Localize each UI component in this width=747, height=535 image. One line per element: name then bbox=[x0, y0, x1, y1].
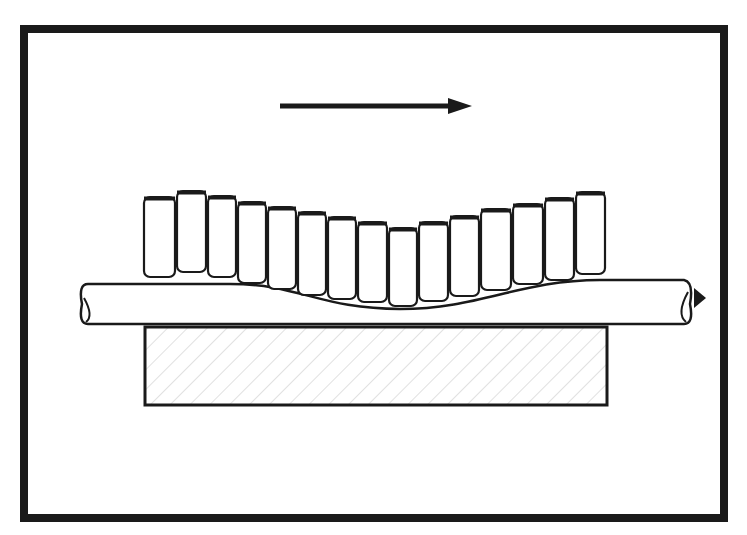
roller bbox=[450, 216, 479, 296]
roller bbox=[177, 191, 206, 272]
roller-body bbox=[358, 222, 387, 302]
roller bbox=[545, 198, 574, 280]
roller bbox=[419, 222, 448, 301]
hatched-support-block bbox=[145, 327, 607, 405]
roller bbox=[298, 212, 326, 295]
roller-body bbox=[238, 202, 266, 283]
roller-body bbox=[298, 212, 326, 295]
arrow-right-icon bbox=[280, 98, 472, 114]
roller bbox=[389, 228, 417, 306]
roller bbox=[513, 204, 543, 284]
roller-body bbox=[481, 209, 511, 290]
arrow-head bbox=[448, 98, 472, 114]
roller-body bbox=[513, 204, 543, 284]
roller bbox=[481, 209, 511, 290]
roller bbox=[328, 217, 356, 299]
roller bbox=[238, 202, 266, 283]
roller-body bbox=[576, 192, 605, 274]
roller-body bbox=[144, 197, 175, 277]
block-hatch bbox=[145, 327, 607, 405]
roller-body bbox=[450, 216, 479, 296]
roller-body bbox=[545, 198, 574, 280]
roller-body bbox=[419, 222, 448, 301]
roller bbox=[268, 207, 296, 289]
roller bbox=[144, 197, 175, 277]
roller bbox=[576, 192, 605, 274]
roller-body bbox=[268, 207, 296, 289]
roller-body bbox=[208, 196, 236, 277]
end-arrowhead bbox=[694, 288, 706, 308]
roller bbox=[208, 196, 236, 277]
roller bbox=[358, 222, 387, 302]
roller-body bbox=[177, 191, 206, 272]
roller-body bbox=[389, 228, 417, 306]
roller-bar-diagram bbox=[0, 0, 747, 535]
arrowhead-right-icon bbox=[694, 288, 706, 308]
roller-body bbox=[328, 217, 356, 299]
